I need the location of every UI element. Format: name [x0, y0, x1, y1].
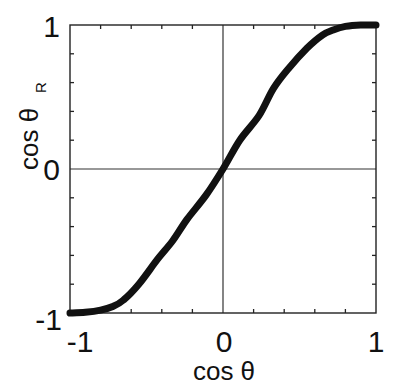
line-chart: 1 0 -1 -1 0 1 cos θ cos θ R	[0, 0, 393, 389]
y-tick-label-neg1: -1	[35, 303, 62, 336]
y-tick-label-0: 0	[43, 153, 60, 186]
y-axis-label: cos θ R	[14, 82, 49, 170]
x-tick-label-0: 0	[216, 325, 233, 358]
y-axis-label-main: cos θ	[14, 108, 44, 170]
y-tick-label-1: 1	[43, 10, 60, 43]
x-axis-label: cos θ	[193, 356, 255, 386]
x-tick-label-neg1: -1	[67, 325, 94, 358]
x-tick-label-1: 1	[368, 325, 385, 358]
y-axis-label-subscript: R	[32, 82, 49, 93]
